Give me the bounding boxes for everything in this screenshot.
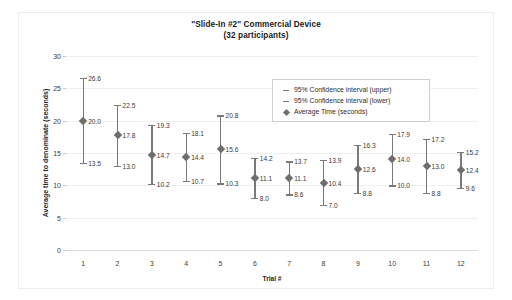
- value-label-mean: 15.6: [226, 146, 239, 153]
- error-bar-cap-upper: [251, 158, 258, 159]
- gridline: [66, 56, 478, 57]
- dash-line-icon: [281, 86, 291, 93]
- error-bar-cap-lower: [457, 188, 464, 189]
- error-bar-cap-lower: [217, 183, 224, 184]
- y-tick-mark: [63, 56, 66, 57]
- data-point-marker[interactable]: [79, 116, 87, 124]
- error-bar-cap-lower: [80, 163, 87, 164]
- value-label-mean: 13.0: [432, 162, 445, 169]
- value-label-lower: 10.0: [397, 182, 410, 189]
- value-label-lower: 8.8: [432, 190, 441, 197]
- value-label-lower: 9.6: [466, 184, 475, 191]
- data-point-marker[interactable]: [285, 174, 293, 182]
- y-tick-mark: [63, 153, 66, 154]
- value-label-mean: 10.4: [329, 179, 342, 186]
- value-label-upper: 17.2: [432, 135, 445, 142]
- error-bar-cap-lower: [354, 193, 361, 194]
- error-bar-cap-upper: [114, 105, 121, 106]
- value-label-lower: 10.3: [226, 180, 239, 187]
- legend-item[interactable]: 95% Confidence interval (lower): [281, 95, 423, 106]
- value-label-upper: 15.2: [466, 148, 479, 155]
- value-label-upper: 13.7: [294, 158, 307, 165]
- data-point-marker[interactable]: [354, 164, 362, 172]
- x-axis-title: Trial #: [66, 275, 478, 282]
- error-bar-cap-lower: [389, 185, 396, 186]
- data-point-marker[interactable]: [251, 174, 259, 182]
- legend-item-label: Average Time (seconds): [294, 108, 368, 115]
- value-label-lower: 10.7: [191, 177, 204, 184]
- value-label-upper: 18.1: [191, 129, 204, 136]
- error-bar-cap-upper: [217, 115, 224, 116]
- error-bar-cap-lower: [320, 205, 327, 206]
- value-label-lower: 7.0: [329, 201, 338, 208]
- value-label-upper: 17.9: [397, 131, 410, 138]
- error-bar-cap-upper: [457, 152, 464, 153]
- chart-title-block: "Slide-In #2" Commercial Device (32 part…: [19, 19, 493, 41]
- y-tick-mark: [63, 218, 66, 219]
- x-tick-label: 1: [81, 260, 85, 267]
- data-point-marker[interactable]: [148, 151, 156, 159]
- value-label-lower: 8.0: [260, 195, 269, 202]
- value-label-mean: 11.1: [260, 175, 272, 182]
- data-point-marker[interactable]: [457, 166, 465, 174]
- x-tick-label: 2: [116, 260, 120, 267]
- value-label-mean: 14.0: [397, 156, 410, 163]
- y-tick-mark: [63, 250, 66, 251]
- gridline: [66, 250, 478, 251]
- error-bar-cap-upper: [354, 145, 361, 146]
- y-tick-label: 15: [53, 150, 61, 157]
- value-label-lower: 8.8: [363, 190, 372, 197]
- chart-container: "Slide-In #2" Commercial Device (32 part…: [18, 12, 494, 289]
- error-bar-cap-lower: [423, 193, 430, 194]
- error-bar-cap-lower: [286, 194, 293, 195]
- value-label-mean: 17.8: [123, 131, 136, 138]
- x-tick-label: 6: [253, 260, 257, 267]
- value-label-upper: 13.9: [329, 157, 342, 164]
- data-point-marker[interactable]: [113, 131, 121, 139]
- chart-subtitle: (32 participants): [19, 30, 493, 41]
- y-tick-label: 25: [53, 85, 61, 92]
- gridline: [66, 218, 478, 219]
- value-label-mean: 14.4: [191, 153, 204, 160]
- x-tick-label: 12: [457, 260, 465, 267]
- value-label-upper: 14.2: [260, 155, 273, 162]
- x-tick-label: 11: [423, 260, 430, 267]
- legend-item[interactable]: Average Time (seconds): [281, 106, 423, 117]
- data-point-marker[interactable]: [388, 155, 396, 163]
- y-tick-mark: [63, 88, 66, 89]
- y-tick-label: 5: [57, 214, 61, 221]
- error-bar-cap-upper: [183, 133, 190, 134]
- error-bar-cap-upper: [423, 139, 430, 140]
- value-label-upper: 26.6: [88, 74, 101, 81]
- value-label-mean: 12.4: [466, 166, 479, 173]
- y-tick-label: 20: [53, 117, 61, 124]
- value-label-mean: 11.1: [294, 175, 306, 182]
- x-tick-label: 4: [184, 260, 188, 267]
- legend-item[interactable]: 95% Confidence interval (upper): [281, 84, 423, 95]
- x-tick-label: 7: [287, 260, 291, 267]
- x-tick-label: 8: [322, 260, 326, 267]
- value-label-upper: 16.3: [363, 141, 376, 148]
- diamond-marker-icon: [281, 108, 291, 115]
- value-label-lower: 13.5: [88, 159, 101, 166]
- data-point-marker[interactable]: [422, 162, 430, 170]
- y-tick-label: 30: [53, 53, 61, 60]
- error-bar-cap-upper: [389, 134, 396, 135]
- value-label-lower: 13.0: [123, 162, 136, 169]
- y-tick-mark: [63, 121, 66, 122]
- value-label-upper: 19.3: [157, 122, 170, 129]
- gridline: [66, 185, 478, 186]
- error-bar-cap-lower: [183, 181, 190, 182]
- y-tick-label: 10: [53, 182, 61, 189]
- value-label-mean: 12.6: [363, 165, 376, 172]
- x-tick-label: 9: [356, 260, 360, 267]
- x-tick-label: 5: [219, 260, 223, 267]
- value-label-upper: 20.8: [226, 112, 239, 119]
- legend-item-label: 95% Confidence interval (lower): [294, 97, 390, 104]
- value-label-mean: 20.0: [88, 117, 101, 124]
- chart-title: "Slide-In #2" Commercial Device: [19, 19, 493, 30]
- chart-legend: 95% Confidence interval (upper)95% Confi…: [272, 79, 430, 122]
- value-label-upper: 22.5: [123, 101, 136, 108]
- x-tick-label: 10: [388, 260, 396, 267]
- y-tick-label: 0: [57, 247, 61, 254]
